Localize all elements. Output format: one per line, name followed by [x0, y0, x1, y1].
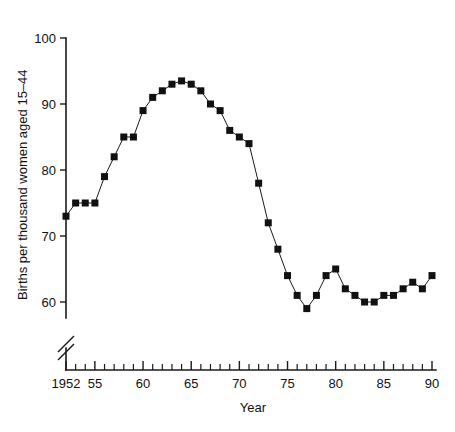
- y-tick-label-80: 80: [42, 163, 56, 178]
- data-point: [207, 101, 214, 108]
- data-point: [342, 285, 349, 292]
- y-axis-title: Births per thousand women aged 15–44: [15, 69, 30, 300]
- data-point: [323, 272, 330, 279]
- data-point: [178, 77, 185, 84]
- data-point: [400, 285, 407, 292]
- x-tick-label-1980: 80: [328, 376, 342, 391]
- y-axis-tick-labels: 60708090100: [34, 31, 56, 310]
- y-tick-label-100: 100: [34, 31, 56, 46]
- data-point: [159, 87, 166, 94]
- data-point: [236, 134, 243, 141]
- y-tick-label-60: 60: [42, 295, 56, 310]
- x-axis-title: Year: [240, 400, 267, 415]
- data-point: [313, 292, 320, 299]
- data-point: [130, 134, 137, 141]
- x-tick-label-1960: 60: [136, 376, 150, 391]
- data-point: [188, 81, 195, 88]
- x-tick-label-1965: 65: [184, 376, 198, 391]
- data-point: [72, 200, 79, 207]
- x-tick-label-1955: 55: [88, 376, 102, 391]
- data-point: [361, 299, 368, 306]
- x-tick-label-1970: 70: [232, 376, 246, 391]
- data-point: [429, 272, 436, 279]
- chart-canvas: 60708090100 19525560657075808590 Births …: [0, 0, 455, 432]
- x-tick-label-1985: 85: [377, 376, 391, 391]
- data-point: [217, 107, 224, 114]
- data-point: [197, 87, 204, 94]
- data-point: [111, 153, 118, 160]
- data-series-group: [63, 77, 436, 312]
- y-tick-label-90: 90: [42, 97, 56, 112]
- data-point: [91, 200, 98, 207]
- x-tick-label-1952: 1952: [52, 376, 81, 391]
- data-point: [63, 213, 70, 220]
- series-markers: [63, 77, 436, 312]
- data-point: [419, 285, 426, 292]
- y-tick-label-70: 70: [42, 229, 56, 244]
- x-axis-tick-labels: 19525560657075808590: [52, 376, 440, 391]
- data-point: [332, 266, 339, 273]
- y-axis-ticks: [60, 38, 66, 302]
- x-axis-ticks: [66, 361, 432, 370]
- data-point: [371, 299, 378, 306]
- data-point: [226, 127, 233, 134]
- data-point: [101, 173, 108, 180]
- data-point: [140, 107, 147, 114]
- data-point: [351, 292, 358, 299]
- data-point: [120, 134, 127, 141]
- data-point: [303, 305, 310, 312]
- y-axis-group: 60708090100: [34, 31, 74, 370]
- data-point: [390, 292, 397, 299]
- data-point: [149, 94, 156, 101]
- birth-rate-line-chart: 60708090100 19525560657075808590 Births …: [0, 0, 455, 432]
- x-tick-label-1990: 90: [425, 376, 439, 391]
- data-point: [284, 272, 291, 279]
- data-point: [380, 292, 387, 299]
- data-point: [274, 246, 281, 253]
- data-point: [255, 180, 262, 187]
- x-axis-group: 19525560657075808590: [52, 361, 440, 391]
- series-line-births: [66, 81, 432, 309]
- data-point: [246, 140, 253, 147]
- data-point: [82, 200, 89, 207]
- x-tick-label-1975: 75: [280, 376, 294, 391]
- data-point: [265, 219, 272, 226]
- data-point: [294, 292, 301, 299]
- data-point: [409, 279, 416, 286]
- data-point: [168, 81, 175, 88]
